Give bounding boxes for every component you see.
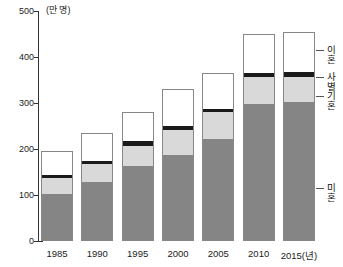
y-tick-label-400: 400	[6, 52, 34, 62]
legend-pointer-line-사별	[316, 77, 324, 78]
bar-2000	[162, 89, 194, 241]
y-tick-label-200: 200	[6, 144, 34, 154]
bar-segment-기혼	[163, 130, 193, 155]
bar-segment-사별	[82, 161, 112, 164]
y-axis-line	[38, 11, 39, 241]
bar-1995	[122, 112, 154, 241]
bar-segment-사별	[123, 141, 153, 146]
y-tick-mark-100	[34, 195, 38, 196]
bar-segment-미혼	[82, 182, 112, 240]
y-axis-unit-label: (만 명)	[46, 3, 71, 16]
bar-segment-사별	[244, 73, 274, 76]
x-axis-label-2015: 2015(년)	[269, 248, 329, 262]
bar-segment-기혼	[123, 146, 153, 167]
bar-1990	[81, 133, 113, 241]
y-tick-label-300: 300	[6, 98, 34, 108]
y-tick-mark-300	[34, 103, 38, 104]
y-tick-label-500: 500	[6, 6, 34, 16]
bar-segment-기혼	[82, 164, 112, 182]
bar-2005	[202, 73, 234, 241]
bar-segment-미혼	[163, 155, 193, 240]
y-tick-mark-0	[34, 241, 38, 242]
stacked-bar-chart: (만 명) 0100200300400500198519901995200020…	[0, 0, 343, 267]
bar-segment-미혼	[123, 166, 153, 240]
bar-2015	[283, 32, 315, 241]
bar-segment-미혼	[244, 104, 274, 240]
legend-pointer-line-기혼	[316, 96, 324, 97]
y-tick-mark-200	[34, 149, 38, 150]
bar-segment-사별	[284, 72, 314, 77]
legend-label-이혼: 이혼	[327, 45, 343, 65]
bar-segment-기혼	[42, 178, 72, 194]
bar-segment-사별	[203, 109, 233, 112]
x-axis-origin-tick	[38, 241, 43, 242]
bar-segment-기혼	[203, 112, 233, 139]
bar-segment-기혼	[244, 77, 274, 105]
bar-2010	[243, 34, 275, 241]
bar-segment-미혼	[203, 139, 233, 240]
y-tick-label-0: 0	[6, 236, 34, 246]
legend-pointer-line-미혼	[316, 188, 324, 189]
bar-segment-사별	[163, 126, 193, 130]
legend-label-기혼: 기혼	[327, 91, 343, 111]
legend-label-사별: 사별	[327, 72, 343, 92]
bar-1985	[41, 151, 73, 241]
y-tick-mark-400	[34, 57, 38, 58]
bar-segment-미혼	[284, 102, 314, 240]
bar-segment-사별	[42, 175, 72, 178]
y-tick-label-100: 100	[6, 190, 34, 200]
legend-pointer-line-이혼	[316, 50, 324, 51]
legend-label-미혼: 미혼	[327, 183, 343, 203]
y-tick-mark-500	[34, 11, 38, 12]
bar-segment-기혼	[284, 77, 314, 102]
bar-segment-미혼	[42, 194, 72, 240]
